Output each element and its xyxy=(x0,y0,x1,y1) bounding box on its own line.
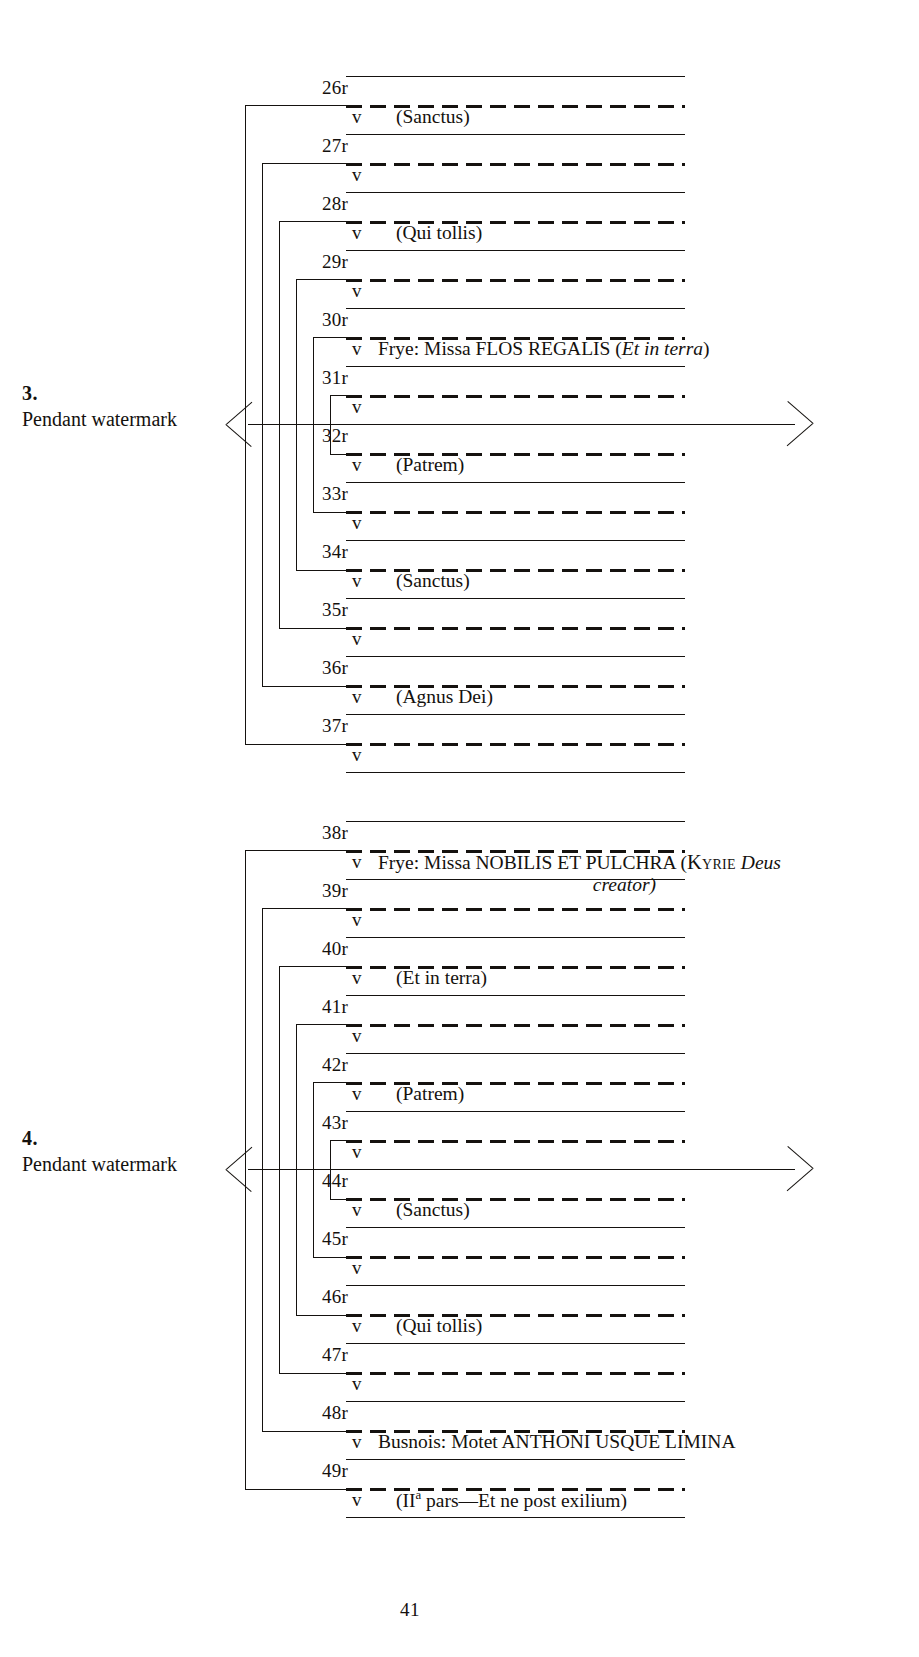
folio-verso-label: v xyxy=(352,1258,362,1277)
verso-rule xyxy=(346,627,685,630)
folio-row: 32rv(Patrem) xyxy=(0,424,919,482)
recto-rule xyxy=(346,1169,685,1170)
recto-rule xyxy=(346,821,685,822)
folio-row: 33rv xyxy=(0,482,919,540)
closing-rule xyxy=(346,1517,685,1518)
folio-verso-label: v xyxy=(352,1374,362,1393)
page-number: 41 xyxy=(400,1599,420,1621)
folio-recto-label: 26r xyxy=(322,78,350,97)
recto-rule xyxy=(346,250,685,251)
folio-verso-label: v xyxy=(352,1084,362,1103)
recto-rule xyxy=(346,308,685,309)
folio-row: 36rv(Agnus Dei) xyxy=(0,656,919,714)
recto-rule xyxy=(346,1053,685,1054)
folio-verso-label: v xyxy=(352,165,362,184)
folio-verso-label: v xyxy=(352,571,362,590)
folio-row: 34rv(Sanctus) xyxy=(0,540,919,598)
folio-verso-label: v xyxy=(352,1490,362,1509)
folio-verso-label: v xyxy=(352,1200,362,1219)
recto-rule xyxy=(346,482,685,483)
folio-entry: (Sanctus) xyxy=(396,106,470,127)
folio-verso-label: v xyxy=(352,455,362,474)
folio-row: 38rvFrye: Missa NOBILIS ET PULCHRA (Kyri… xyxy=(0,821,919,879)
folio-verso-label: v xyxy=(352,1026,362,1045)
bifolium-bracket xyxy=(330,395,347,455)
folio-verso-label: v xyxy=(352,745,362,764)
folio-row: 31rv xyxy=(0,366,919,424)
verso-rule xyxy=(346,743,685,746)
folio-row: 43rv xyxy=(0,1111,919,1169)
folio-verso-label: v xyxy=(352,281,362,300)
folio-verso-label: v xyxy=(352,852,362,871)
folio-verso-label: v xyxy=(352,513,362,532)
verso-rule xyxy=(346,163,685,166)
folio-verso-label: v xyxy=(352,968,362,987)
folio-row: 42rv(Patrem) xyxy=(0,1053,919,1111)
recto-rule xyxy=(346,1285,685,1286)
recto-rule xyxy=(346,656,685,657)
verso-rule xyxy=(346,1372,685,1375)
folio-verso-label: v xyxy=(352,223,362,242)
recto-rule xyxy=(346,995,685,996)
recto-rule xyxy=(346,879,685,880)
folio-row: 41rv xyxy=(0,995,919,1053)
recto-rule xyxy=(346,540,685,541)
folio-entry: (Qui tollis) xyxy=(396,222,482,243)
folio-row: 48rvBusnois: Motet ANTHONI USQUE LIMINA xyxy=(0,1401,919,1459)
folio-row: 27rv xyxy=(0,134,919,192)
recto-rule xyxy=(346,76,685,77)
verso-rule xyxy=(346,908,685,911)
folio-recto-label: 38r xyxy=(322,823,350,842)
closing-rule xyxy=(346,772,685,773)
folio-row: 29rv xyxy=(0,250,919,308)
folio-verso-label: v xyxy=(352,107,362,126)
recto-rule xyxy=(346,366,685,367)
verso-rule xyxy=(346,1140,685,1143)
folio-verso-label: v xyxy=(352,910,362,929)
folio-row: 47rv xyxy=(0,1343,919,1401)
folio-row: 30rvFrye: Missa FLOS REGALIS (Et in terr… xyxy=(0,308,919,366)
folio-entry: (Patrem) xyxy=(396,1083,464,1104)
recto-rule xyxy=(346,598,685,599)
recto-rule xyxy=(346,1401,685,1402)
folio-entry: (Agnus Dei) xyxy=(396,686,493,707)
collation-diagram-page: 3. Pendant watermark 26rv(Sanctus)27rv28… xyxy=(0,0,919,1657)
folio-verso-label: v xyxy=(352,397,362,416)
verso-rule xyxy=(346,1024,685,1027)
recto-rule xyxy=(346,1343,685,1344)
recto-rule xyxy=(346,714,685,715)
folio-row: 26rv(Sanctus) xyxy=(0,76,919,134)
folio-verso-label: v xyxy=(352,1142,362,1161)
folio-row: 44rv(Sanctus) xyxy=(0,1169,919,1227)
folio-entry: (Sanctus) xyxy=(396,570,470,591)
recto-rule xyxy=(346,1111,685,1112)
recto-rule xyxy=(346,192,685,193)
recto-rule xyxy=(346,134,685,135)
folio-row: 35rv xyxy=(0,598,919,656)
bifolium-bracket xyxy=(330,1140,347,1200)
folio-entry: (IIa pars—Et ne post exilium) xyxy=(396,1489,627,1511)
folio-verso-label: v xyxy=(352,1432,362,1451)
folio-verso-label: v xyxy=(352,629,362,648)
folio-entry: (Et in terra) xyxy=(396,967,487,988)
verso-rule xyxy=(346,511,685,514)
folio-row: 45rv xyxy=(0,1227,919,1285)
folio-verso-label: v xyxy=(352,1316,362,1335)
recto-rule xyxy=(346,1459,685,1460)
verso-rule xyxy=(346,1256,685,1259)
folio-entry: (Patrem) xyxy=(396,454,464,475)
folio-row: 40rv(Et in terra) xyxy=(0,937,919,995)
verso-rule xyxy=(346,279,685,282)
recto-rule xyxy=(346,424,685,425)
folio-verso-label: v xyxy=(352,339,362,358)
folio-row: 39rv xyxy=(0,879,919,937)
folio-row: 28rv(Qui tollis) xyxy=(0,192,919,250)
folio-verso-label: v xyxy=(352,687,362,706)
folio-row: 49rv(IIa pars—Et ne post exilium) xyxy=(0,1459,919,1517)
folio-row: 37rv xyxy=(0,714,919,772)
folio-entry: (Sanctus) xyxy=(396,1199,470,1220)
folio-row: 46rv(Qui tollis) xyxy=(0,1285,919,1343)
folio-entry: Frye: Missa FLOS REGALIS (Et in terra) xyxy=(378,338,710,359)
recto-rule xyxy=(346,1227,685,1228)
verso-rule xyxy=(346,395,685,398)
